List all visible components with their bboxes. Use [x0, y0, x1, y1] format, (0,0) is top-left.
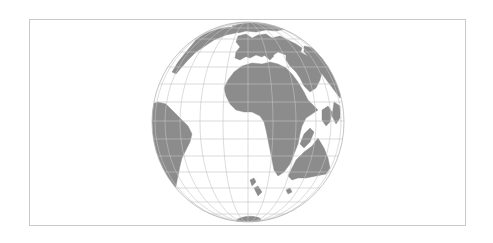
globe-map: [0, 0, 493, 243]
